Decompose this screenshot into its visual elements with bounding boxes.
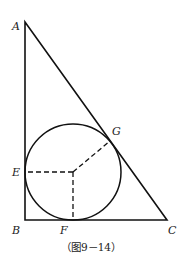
label-e: E	[11, 166, 20, 179]
radius-to-g	[73, 141, 110, 172]
label-f: F	[59, 224, 68, 237]
figure-caption: （图9－14）	[61, 241, 121, 253]
label-a: A	[11, 20, 20, 33]
triangle-abc	[25, 22, 167, 220]
label-c: C	[168, 224, 177, 237]
geometry-diagram: A G E B F C （图9－14）	[0, 0, 186, 268]
label-g: G	[112, 125, 121, 138]
label-b: B	[11, 224, 20, 237]
